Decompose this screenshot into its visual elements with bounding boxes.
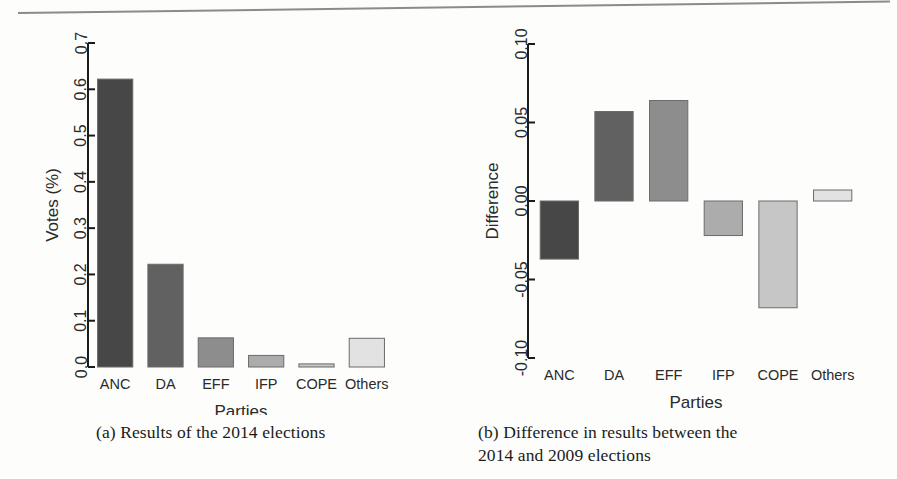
x-tick-label-anc: ANC — [544, 367, 575, 383]
bar-da — [148, 264, 183, 367]
y-tick-label: 0.00 — [513, 185, 530, 216]
bar-eff — [198, 338, 233, 367]
y-tick-label: -0.10 — [513, 340, 530, 377]
bar-eff — [650, 101, 688, 201]
x-tick-label-anc: ANC — [100, 376, 131, 392]
bar-da — [595, 112, 633, 201]
x-tick-label-da: DA — [604, 367, 624, 383]
chart-panel-results-2014: 0.00.10.20.30.40.50.60.7Votes (%)ANCDAEF… — [0, 0, 440, 415]
y-tick-label: 0.05 — [513, 107, 530, 138]
bar-cope — [759, 201, 797, 308]
caption-b-line2: 2014 and 2009 elections — [478, 445, 651, 465]
caption-b-line1: (b) Difference in results between the — [478, 422, 737, 442]
y-tick-label: 0.5 — [73, 124, 90, 146]
y-tick-label: 0.1 — [73, 309, 90, 331]
x-tick-label-da: DA — [155, 376, 175, 392]
x-tick-label-ifp: IFP — [255, 376, 278, 392]
y-axis-title: Votes (%) — [43, 168, 62, 242]
bar-chart-results-2014: 0.00.10.20.30.40.50.60.7Votes (%)ANCDAEF… — [0, 0, 440, 415]
bar-ifp — [249, 355, 284, 367]
bar-chart-difference: -0.10-0.050.000.050.10DifferenceANCDAEFF… — [440, 0, 897, 415]
y-tick-label: 0.3 — [73, 217, 90, 239]
y-tick-label: -0.05 — [513, 261, 530, 298]
y-tick-label: 0.0 — [73, 356, 90, 378]
x-tick-label-others: Others — [811, 367, 855, 383]
x-tick-label-cope: COPE — [757, 367, 798, 383]
bar-others — [349, 338, 384, 367]
bar-others — [814, 190, 852, 201]
bar-cope — [299, 364, 334, 367]
y-tick-label: 0.10 — [513, 28, 530, 59]
x-tick-label-cope: COPE — [296, 376, 337, 392]
figure-caption-a: (a) Results of the 2014 elections — [96, 421, 426, 444]
x-axis-title: Parties — [670, 393, 723, 412]
caption-a-text: (a) Results of the 2014 elections — [96, 422, 325, 442]
y-axis-title: Difference — [483, 162, 502, 239]
bar-anc — [98, 79, 133, 367]
x-tick-label-ifp: IFP — [712, 367, 735, 383]
x-tick-label-eff: EFF — [655, 367, 683, 383]
y-tick-label: 0.7 — [73, 32, 90, 54]
chart-panel-difference: -0.10-0.050.000.050.10DifferenceANCDAEFF… — [440, 0, 897, 415]
bar-ifp — [704, 201, 742, 236]
y-tick-label: 0.2 — [73, 263, 90, 285]
x-axis-title: Parties — [215, 402, 268, 415]
y-tick-label: 0.6 — [73, 78, 90, 100]
bar-anc — [540, 201, 578, 259]
figure-page: 0.00.10.20.30.40.50.60.7Votes (%)ANCDAEF… — [0, 0, 897, 479]
x-tick-label-others: Others — [345, 376, 389, 392]
x-tick-label-eff: EFF — [202, 376, 230, 392]
figure-caption-b: (b) Difference in results between the 20… — [478, 421, 876, 467]
y-tick-label: 0.4 — [73, 171, 90, 193]
